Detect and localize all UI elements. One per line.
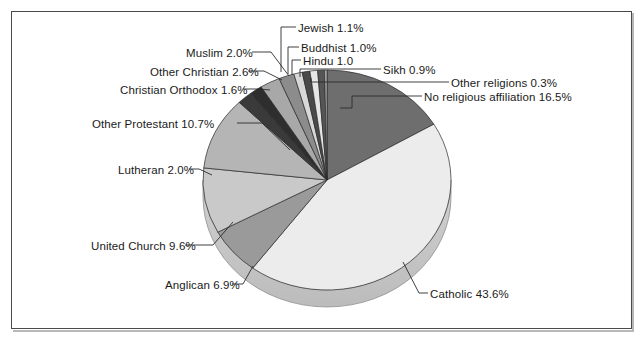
label-anglican: Anglican 6.9% <box>165 279 240 292</box>
label-other-religions: Other religions 0.3% <box>451 77 557 90</box>
label-no-religious-affiliation: No religious affiliation 16.5% <box>424 91 572 104</box>
label-other-christian: Other Christian 2.6% <box>150 66 259 79</box>
pie-chart-figure: Jewish 1.1% Buddhist 1.0% Hindu 1.0 Sikh… <box>0 0 644 342</box>
leader-line <box>288 47 299 74</box>
leader-line <box>281 27 296 72</box>
label-buddhist: Buddhist 1.0% <box>301 42 376 55</box>
label-christian-orthodox: Christian Orthodox 1.6% <box>120 84 248 97</box>
label-united-church: United Church 9.6% <box>91 240 196 253</box>
label-jewish: Jewish 1.1% <box>298 22 364 35</box>
pie-slices <box>203 70 451 290</box>
label-catholic: Catholic 43.6% <box>430 288 509 301</box>
label-lutheran: Lutheran 2.0% <box>118 164 194 177</box>
label-muslim: Muslim 2.0% <box>186 47 253 60</box>
chart-canvas: Jewish 1.1% Buddhist 1.0% Hindu 1.0 Sikh… <box>0 0 644 342</box>
label-hindu: Hindu 1.0 <box>303 55 353 68</box>
label-sikh: Sikh 0.9% <box>383 64 436 77</box>
label-other-protestant: Other Protestant 10.7% <box>92 118 214 131</box>
